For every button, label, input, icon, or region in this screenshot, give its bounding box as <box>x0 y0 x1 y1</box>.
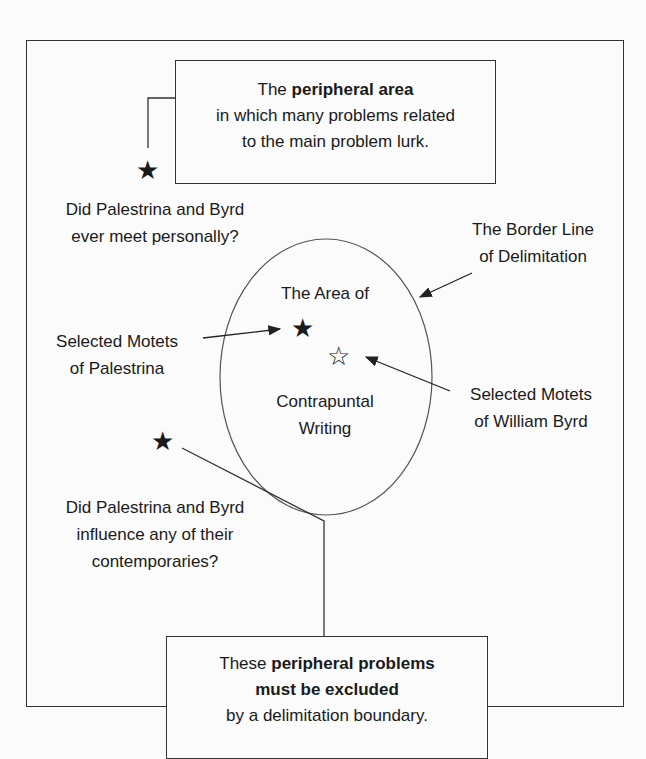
palestrina-label: Selected Motets of Palestrina <box>32 328 202 382</box>
question-meet: Did Palestrina and Byrd ever meet person… <box>40 196 270 250</box>
circle-text: Writing <box>240 415 410 442</box>
label-text: of Delimitation <box>448 243 618 270</box>
label-text: Selected Motets <box>32 328 202 355</box>
box-text: These <box>219 654 271 673</box>
peripheral-area-box: The peripheral area in which many proble… <box>175 60 496 184</box>
exclusion-box: These peripheral problems must be exclud… <box>166 636 488 759</box>
question-text: contemporaries? <box>40 548 270 575</box>
label-text: of Palestrina <box>32 355 202 382</box>
byrd-label: Selected Motets of William Byrd <box>446 381 616 435</box>
byrd-star-icon: ☆ <box>327 343 350 369</box>
circle-title: The Area of <box>250 280 400 307</box>
question-text: influence any of their <box>40 521 270 548</box>
label-text: Selected Motets <box>446 381 616 408</box>
question-text: Did Palestrina and Byrd <box>40 196 270 223</box>
circle-text: Contrapuntal <box>240 388 410 415</box>
filled-star-icon: ★ <box>151 428 174 454</box>
box-text: by a delimitation boundary. <box>167 703 487 729</box>
box-text: The <box>258 80 292 99</box>
box-bold-text: must be excluded <box>255 680 399 699</box>
box-text: in which many problems related <box>176 103 495 129</box>
box-bold-text: peripheral problems <box>271 654 434 673</box>
question-influence: Did Palestrina and Byrd influence any of… <box>40 494 270 575</box>
border-line-label: The Border Line of Delimitation <box>448 216 618 270</box>
filled-star-icon: ★ <box>136 157 159 183</box>
circle-subtitle: Contrapuntal Writing <box>240 388 410 442</box>
box-bold-text: peripheral area <box>292 80 414 99</box>
label-text: of William Byrd <box>446 408 616 435</box>
question-text: Did Palestrina and Byrd <box>40 494 270 521</box>
box-text: to the main problem lurk. <box>176 129 495 155</box>
question-text: ever meet personally? <box>40 223 270 250</box>
palestrina-star-icon: ★ <box>291 315 314 341</box>
label-text: The Border Line <box>448 216 618 243</box>
